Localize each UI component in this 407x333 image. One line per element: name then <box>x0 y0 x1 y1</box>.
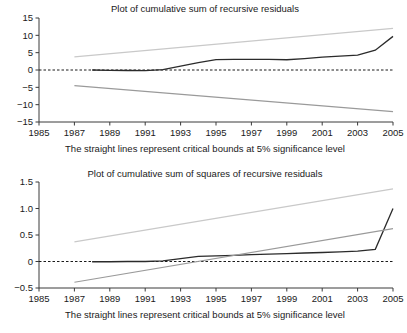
cusum-chart-panel: Plot of cumulative sum of recursive resi… <box>0 0 407 160</box>
cusum-caption: The straight lines represent critical bo… <box>65 143 345 154</box>
cusumsq-x-tick-label: 1985 <box>28 293 49 304</box>
cusumsq-x-tick-label: 1995 <box>205 293 226 304</box>
cusumsq-x-tick-label: 2001 <box>312 293 333 304</box>
cusumsq-x-tick-label: 2005 <box>382 293 403 304</box>
cusumsq-caption: The straight lines represent critical bo… <box>65 309 345 320</box>
cusumsq-y-tick-label: 0 <box>28 256 33 267</box>
cusumsq-y-tick-label: −0.5 <box>14 282 33 293</box>
cusum-x-tick-label: 1987 <box>64 127 85 138</box>
cusum-x-tick-label: 2005 <box>382 127 403 138</box>
cusum-x-tick-label: 1997 <box>241 127 262 138</box>
cusum-chart-svg: Plot of cumulative sum of recursive resi… <box>0 0 407 160</box>
cusumsq-x-tick-label: 1989 <box>99 293 120 304</box>
cusum-y-tick-label: −10 <box>17 99 33 110</box>
cusum-x-tick-label: 1995 <box>205 127 226 138</box>
cusum-x-tick-label: 2001 <box>312 127 333 138</box>
cusum-y-tick-label: 15 <box>22 12 33 23</box>
cusumsq-x-tick-label: 1991 <box>135 293 156 304</box>
cusumsq-x-tick-label: 1993 <box>170 293 191 304</box>
cusumsq-x-tick-label: 1987 <box>64 293 85 304</box>
cusum-title: Plot of cumulative sum of recursive resi… <box>111 3 299 14</box>
cusumsq-y-tick-label: 1.5 <box>20 176 33 187</box>
cusumsq-title: Plot of cumulative sum of squares of rec… <box>88 168 323 179</box>
cusum-series-1 <box>74 28 393 56</box>
cusum-y-tick-label: 0 <box>28 64 33 75</box>
cusum-y-tick-label: −15 <box>17 116 33 127</box>
cusumsq-series-2 <box>74 229 393 283</box>
cusum-x-tick-label: 2003 <box>347 127 368 138</box>
cusum-x-tick-label: 1985 <box>28 127 49 138</box>
cusumsq-chart-panel: Plot of cumulative sum of squares of rec… <box>0 166 407 333</box>
cusum-x-tick-label: 1989 <box>99 127 120 138</box>
cusumsq-chart-svg: Plot of cumulative sum of squares of rec… <box>0 166 407 333</box>
cusumsq-y-tick-label: 0.5 <box>20 229 33 240</box>
cusumsq-series-1 <box>74 189 393 242</box>
cusumsq-x-tick-label: 2003 <box>347 293 368 304</box>
cusumsq-y-tick-label: 1.0 <box>20 203 33 214</box>
cusumsq-x-tick-label: 1997 <box>241 293 262 304</box>
cusum-y-tick-label: 5 <box>28 47 33 58</box>
cusum-x-tick-label: 1991 <box>135 127 156 138</box>
cusum-series-2 <box>74 86 393 112</box>
cusum-x-tick-label: 1993 <box>170 127 191 138</box>
cusum-y-tick-label: 10 <box>22 30 33 41</box>
cusumsq-x-tick-label: 1999 <box>276 293 297 304</box>
cusum-y-tick-label: −5 <box>22 82 33 93</box>
cusum-x-tick-label: 1999 <box>276 127 297 138</box>
